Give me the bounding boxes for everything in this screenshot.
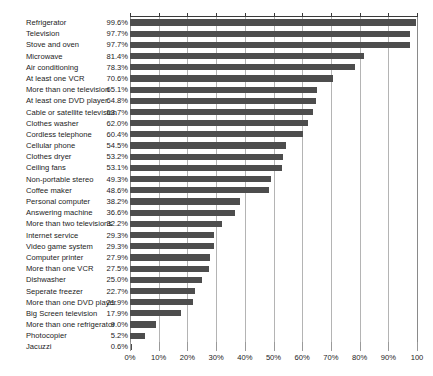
- axis-tick: [417, 342, 418, 351]
- bar: [130, 19, 416, 25]
- bar-value-label: 49.3%: [96, 174, 128, 185]
- bar: [130, 277, 202, 283]
- bar-track: [130, 151, 417, 162]
- chart-row: Cordless telephone60.4%: [0, 129, 433, 140]
- chart-row: More than one VCR27.5%: [0, 263, 433, 274]
- axis-tick: [302, 13, 303, 16]
- bar-value-label: 36.6%: [96, 207, 128, 218]
- axis-tick: [187, 13, 188, 16]
- bar: [130, 64, 355, 70]
- bar: [130, 288, 195, 294]
- x-axis-tick-labels: 0%10%20%30%40%50%60%70%80%90%100: [0, 352, 433, 364]
- bar-category-label: More than one television: [26, 84, 100, 95]
- chart-row: Television97.7%: [0, 28, 433, 39]
- bar-track: [130, 185, 417, 196]
- bar-value-label: 17.9%: [96, 308, 128, 319]
- bar-track: [130, 241, 417, 252]
- bar-track: [130, 118, 417, 129]
- bar-category-label: Refrigerator: [26, 17, 100, 28]
- axis-tick: [417, 13, 418, 16]
- bar-value-label: 78.3%: [96, 62, 128, 73]
- bar-track: [130, 286, 417, 297]
- bar-value-label: 99.6%: [96, 17, 128, 28]
- chart-row: Stove and oven97.7%: [0, 39, 433, 50]
- bar-track: [130, 230, 417, 241]
- bar-track: [130, 17, 417, 28]
- bar-category-label: Cordless telephone: [26, 129, 100, 140]
- bar-value-label: 53.1%: [96, 162, 128, 173]
- bar-track: [130, 297, 417, 308]
- axis-tick: [245, 342, 246, 351]
- bar: [130, 75, 333, 81]
- bar: [130, 254, 210, 260]
- bar-category-label: Seperate freezer: [26, 286, 100, 297]
- chart-row: Non-portable stereo49.3%: [0, 174, 433, 185]
- chart-row: Refrigerator99.6%: [0, 17, 433, 28]
- bar-track: [130, 207, 417, 218]
- bar-category-label: Clothes washer: [26, 118, 100, 129]
- bar: [130, 310, 181, 316]
- bar-track: [130, 73, 417, 84]
- chart-row: Ceiling fans53.1%: [0, 162, 433, 173]
- bar-value-label: 22.7%: [96, 286, 128, 297]
- bar-value-label: 64.8%: [96, 95, 128, 106]
- chart-row: Clothes washer62.0%: [0, 118, 433, 129]
- bar-category-label: Internet service: [26, 230, 100, 241]
- axis-tick: [187, 342, 188, 351]
- bar-value-label: 27.5%: [96, 263, 128, 274]
- bar-track: [130, 162, 417, 173]
- bar-category-label: Cellular phone: [26, 140, 100, 151]
- bar: [130, 131, 303, 137]
- bar-value-label: 63.7%: [96, 107, 128, 118]
- bar: [130, 221, 222, 227]
- bar-category-label: Personal computer: [26, 196, 100, 207]
- bar-category-label: Air conditioning: [26, 62, 100, 73]
- bar-category-label: Ceiling fans: [26, 162, 100, 173]
- bar-category-label: At least one VCR: [26, 73, 100, 84]
- bar-track: [130, 28, 417, 39]
- chart-row: Answering machine36.6%: [0, 207, 433, 218]
- axis-tick: [331, 13, 332, 16]
- bar-value-label: 29.3%: [96, 241, 128, 252]
- bar: [130, 154, 283, 160]
- chart-row: Cable or satellite television63.7%: [0, 107, 433, 118]
- bar-value-label: 21.9%: [96, 297, 128, 308]
- bar-category-label: Stove and oven: [26, 39, 100, 50]
- chart-row: Photocopier5.2%: [0, 330, 433, 341]
- bar-category-label: Jacuzzi: [26, 341, 100, 352]
- axis-tick: [130, 13, 131, 16]
- bar-value-label: 25.0%: [96, 274, 128, 285]
- chart-row: Dishwasher25.0%: [0, 274, 433, 285]
- bar: [130, 321, 156, 327]
- bar-category-label: At least one DVD player: [26, 95, 100, 106]
- bar-track: [130, 174, 417, 185]
- bar-track: [130, 62, 417, 73]
- bar-value-label: 38.2%: [96, 196, 128, 207]
- axis-tick: [360, 13, 361, 16]
- bar-category-label: Coffee maker: [26, 185, 100, 196]
- axis-tick: [159, 342, 160, 351]
- bar-value-label: 54.5%: [96, 140, 128, 151]
- bar-value-label: 65.1%: [96, 84, 128, 95]
- bar-track: [130, 107, 417, 118]
- bar-track: [130, 140, 417, 151]
- chart-row: Personal computer38.2%: [0, 196, 433, 207]
- chart-row: Air conditioning78.3%: [0, 62, 433, 73]
- bar-value-label: 81.4%: [96, 51, 128, 62]
- bar-track: [130, 308, 417, 319]
- axis-tick: [388, 342, 389, 351]
- bar-track: [130, 39, 417, 50]
- chart-row: Seperate freezer22.7%: [0, 286, 433, 297]
- bar: [130, 165, 282, 171]
- bar-category-label: Dishwasher: [26, 274, 100, 285]
- bar: [130, 266, 209, 272]
- chart-row: Microwave81.4%: [0, 51, 433, 62]
- chart-row: Video game system29.3%: [0, 241, 433, 252]
- chart-row: Computer printer27.9%: [0, 252, 433, 263]
- bar-track: [130, 95, 417, 106]
- bar: [130, 232, 214, 238]
- axis-tick: [245, 13, 246, 16]
- bar-value-label: 97.7%: [96, 28, 128, 39]
- bar: [130, 31, 410, 37]
- bar: [130, 243, 214, 249]
